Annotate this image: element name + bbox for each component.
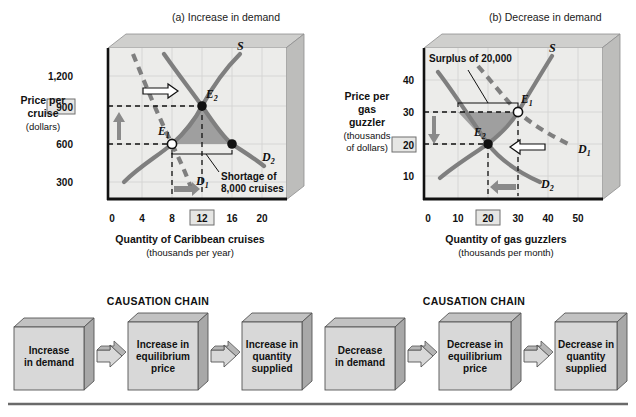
panel-a-quantity-supplied-marker bbox=[227, 139, 237, 149]
panel-b-xtick-2: 20 bbox=[482, 213, 494, 224]
chain-a-title: CAUSATION CHAIN bbox=[107, 295, 209, 307]
panel-a-xlabel-line1: Quantity of Caribbean cruises bbox=[115, 233, 265, 245]
chain-a-box-3-line2: quantity bbox=[253, 351, 292, 362]
chain-a-box-2: Increase in equilibrium price bbox=[128, 313, 208, 390]
panel-a-top-face bbox=[108, 34, 304, 48]
panel-a-annotation-line1: Shortage of bbox=[221, 171, 277, 182]
chain-a-box-1-line2: in demand bbox=[24, 357, 74, 368]
panel-a-equilibrium-E1-marker bbox=[167, 139, 176, 148]
chain-b-title: CAUSATION CHAIN bbox=[423, 295, 525, 307]
chain-b-box-2-line3: price bbox=[463, 363, 487, 374]
panel-a-equilibrium-E2-marker bbox=[197, 101, 207, 111]
panel-b-ylabel-line1: Price per bbox=[345, 90, 390, 102]
panel-b-ytick-3: 10 bbox=[403, 171, 415, 182]
panel-b-ylabel-line5: of dollars) bbox=[346, 142, 388, 153]
chain-b-box-3-line1: Decrease in bbox=[558, 339, 614, 350]
chain-b-box-2-line2: equilibrium bbox=[448, 351, 502, 362]
panel-a-xtick-5: 20 bbox=[256, 213, 268, 224]
panel-a-supply-label: S bbox=[237, 39, 244, 53]
panel-b-title: (b) Decrease in demand bbox=[489, 11, 602, 23]
chain-b-box-1: Decrease in demand bbox=[325, 318, 405, 390]
chain-b-box-3-line3: supplied bbox=[565, 363, 606, 374]
chain-a-box-3: Increase in quantity supplied bbox=[242, 313, 312, 390]
panel-a-ylabel-line1: Price per bbox=[21, 94, 66, 106]
panel-b-annotation-line1: Surplus of 20,000 bbox=[429, 53, 512, 64]
chain-b-box-1-line1: Decrease bbox=[338, 345, 383, 356]
chain-a-box-3-line3: supplied bbox=[251, 363, 292, 374]
panel-a-xtick-0: 0 bbox=[109, 213, 115, 224]
panel-b-xtick-5: 50 bbox=[572, 213, 584, 224]
panel-a-xtick-1: 4 bbox=[139, 213, 145, 224]
chain-a-box-3-line1: Increase in bbox=[246, 339, 298, 350]
panel-b-xtick-1: 10 bbox=[452, 213, 464, 224]
chain-b-box-2: Decrease in equilibrium price bbox=[439, 313, 521, 390]
chain-b-box-3: Decrease in quantity supplied bbox=[555, 313, 627, 390]
panel-a-ylabel-line3: (dollars) bbox=[26, 121, 60, 132]
panel-a-right-face bbox=[286, 34, 304, 200]
panel-b-right-face bbox=[602, 34, 620, 200]
chain-b-box-1-line2: in demand bbox=[335, 357, 385, 368]
panel-b-equilibrium-E1-marker bbox=[513, 107, 522, 116]
panel-b-xlabel-line1: Quantity of gas guzzlers bbox=[445, 233, 567, 245]
panel-b-top-face bbox=[424, 34, 620, 48]
chain-a-box-2-line2: equilibrium bbox=[136, 351, 190, 362]
economics-figure: (a) Increase in demand bbox=[0, 0, 636, 417]
panel-a-xlabel-line2: (thousands per year) bbox=[146, 247, 234, 258]
panel-b-xtick-4: 40 bbox=[542, 213, 554, 224]
panel-a-ylabel-line2: cruise bbox=[28, 107, 59, 119]
chain-a-box-1: Increase in demand bbox=[14, 318, 94, 390]
panel-b-xlabel-line2: (thousands per month) bbox=[458, 247, 554, 258]
panel-b-ylabel-line4: (thousands bbox=[343, 130, 390, 141]
panel-a-ytick-0: 1,200 bbox=[48, 71, 73, 82]
panel-b-xtick-3: 30 bbox=[512, 213, 524, 224]
panel-b-supply-label: S bbox=[549, 41, 556, 55]
panel-a-ytick-3: 300 bbox=[56, 177, 73, 188]
panel-b-ytick-2: 20 bbox=[403, 140, 415, 151]
chain-b-box-2-line1: Decrease in bbox=[447, 339, 503, 350]
panel-a-title: (a) Increase in demand bbox=[172, 11, 280, 23]
panel-a-xtick-2: 8 bbox=[169, 213, 175, 224]
chain-b-box-3-line2: quantity bbox=[567, 351, 606, 362]
panel-a-ytick-2: 600 bbox=[56, 139, 73, 150]
chain-a-box-2-line1: Increase in bbox=[137, 339, 189, 350]
panel-a-xtick-4: 16 bbox=[226, 213, 238, 224]
panel-b-plot-background bbox=[424, 48, 602, 200]
chain-a-box-1-line1: Increase bbox=[29, 345, 70, 356]
chain-a-box-2-line3: price bbox=[151, 363, 175, 374]
panel-b-ylabel-line3: guzzler bbox=[349, 116, 385, 128]
figure-svg: (a) Increase in demand bbox=[0, 0, 636, 417]
panel-b-ylabel-line2: gas bbox=[358, 103, 376, 115]
panel-a-annotation-line2: 8,000 cruises bbox=[221, 183, 284, 194]
panel-a-xtick-3: 12 bbox=[196, 213, 208, 224]
panel-b-xtick-0: 0 bbox=[425, 213, 431, 224]
panel-b-ytick-1: 30 bbox=[403, 107, 415, 118]
panel-b-ytick-0: 40 bbox=[403, 75, 415, 86]
